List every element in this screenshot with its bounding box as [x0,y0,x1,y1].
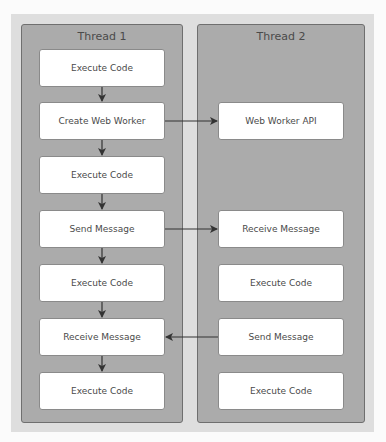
thread-1-step-execute-code-4[interactable]: Execute Code [39,372,165,410]
thread-2-step-receive-message[interactable]: Receive Message [218,210,344,248]
thread-1-title: Thread 1 [22,30,182,43]
thread-1-step-create-web-worker[interactable]: Create Web Worker [39,102,165,140]
thread-2-step-send-message[interactable]: Send Message [218,318,344,356]
thread-2-step-web-worker-api[interactable]: Web Worker API [218,102,344,140]
thread-2-step-execute-code-1[interactable]: Execute Code [218,264,344,302]
thread-1-step-send-message[interactable]: Send Message [39,210,165,248]
thread-2-step-execute-code-2[interactable]: Execute Code [218,372,344,410]
thread-1-step-execute-code-2[interactable]: Execute Code [39,156,165,194]
thread-2-title: Thread 2 [198,30,364,43]
thread-1-step-execute-code-1[interactable]: Execute Code [39,49,165,87]
thread-1-step-receive-message[interactable]: Receive Message [39,318,165,356]
thread-1-step-execute-code-3[interactable]: Execute Code [39,264,165,302]
